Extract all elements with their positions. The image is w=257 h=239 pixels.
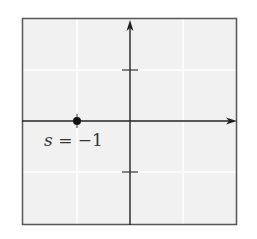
point-marker — [73, 117, 81, 125]
s-plane-diagram: s = −1 — [0, 0, 257, 239]
label-equals: = — [53, 130, 78, 150]
label-variable: s — [44, 130, 53, 150]
point-label: s = −1 — [44, 130, 103, 150]
label-value: −1 — [78, 130, 103, 150]
